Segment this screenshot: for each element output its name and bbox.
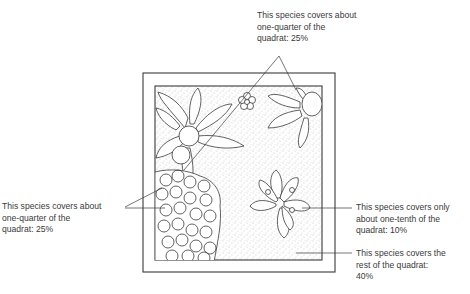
- label-line: quadrat: 10%: [356, 225, 450, 237]
- label-line: rest of the quadrat:: [356, 260, 446, 272]
- label-large-flower-species: This species covers only about one-tenth…: [356, 202, 450, 237]
- label-line: quadrat: 25%: [257, 33, 356, 45]
- label-line: about one-tenth of the: [356, 214, 450, 226]
- label-ground-species: This species covers the rest of the quad…: [356, 248, 446, 283]
- label-top-species: This species covers about one-quarter of…: [257, 10, 356, 45]
- clustered-flowers: [155, 170, 221, 264]
- label-line: one-quarter of the: [2, 213, 101, 225]
- label-line: This species covers about: [257, 10, 356, 22]
- label-line: one-quarter of the: [257, 22, 356, 34]
- label-left-species: This species covers about one-quarter of…: [2, 201, 101, 236]
- label-line: This species covers only: [356, 202, 450, 214]
- label-line: This species covers the: [356, 248, 446, 260]
- label-line: quadrat: 25%: [2, 224, 101, 236]
- label-line: This species covers about: [2, 201, 101, 213]
- label-line: 40%: [356, 271, 446, 283]
